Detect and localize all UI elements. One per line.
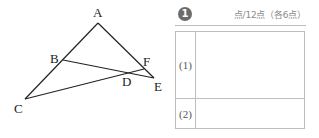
answer-row: (2) <box>176 99 305 129</box>
geometry-figure: A B C D E F <box>0 0 170 138</box>
segment-be <box>63 60 154 78</box>
point-label-d: D <box>122 74 131 89</box>
point-label-b: B <box>50 51 59 66</box>
point-label-e: E <box>154 79 162 94</box>
answer-field[interactable] <box>196 32 305 99</box>
answer-box: 1 点/12点（各6点） (1) (2) <box>175 4 306 26</box>
point-label-f: F <box>143 54 150 69</box>
answer-field[interactable] <box>196 99 305 129</box>
answer-table: (1) (2) <box>175 31 305 129</box>
question-number: (1) <box>176 32 196 99</box>
answer-row: (1) <box>176 32 305 99</box>
problem-number-badge: 1 <box>178 7 192 21</box>
point-label-a: A <box>93 5 103 20</box>
score-label: 点/12点（各6点） <box>234 8 306 21</box>
answer-header: 1 点/12点（各6点） <box>175 4 306 26</box>
segment-ac <box>25 23 98 99</box>
segment-ae <box>98 23 154 78</box>
question-number: (2) <box>176 99 196 129</box>
point-label-c: C <box>14 101 23 116</box>
